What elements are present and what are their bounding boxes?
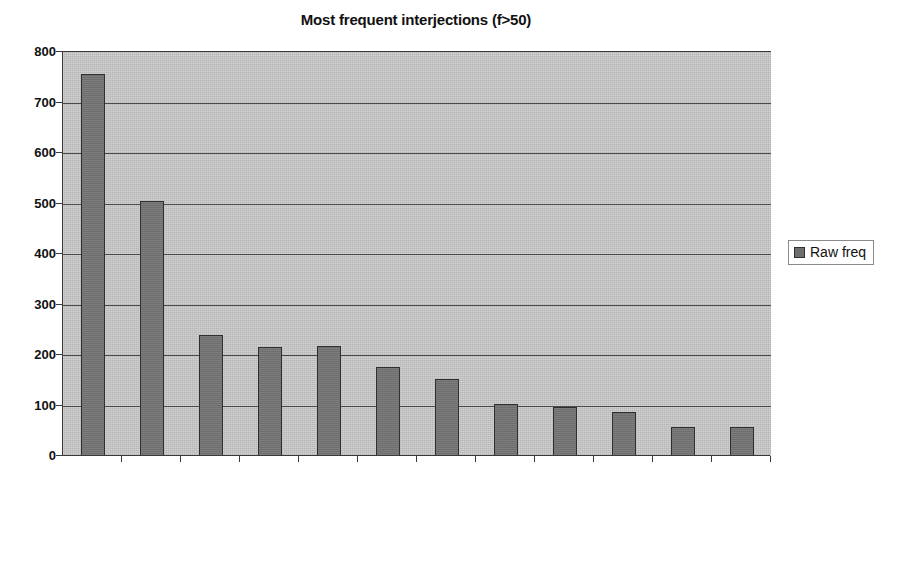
bar (81, 74, 105, 456)
y-axis-tick-label: 400 (10, 246, 56, 261)
y-axis-tick (56, 354, 62, 355)
bar (435, 379, 459, 456)
y-axis-tick-label: 100 (10, 397, 56, 412)
bar (553, 407, 577, 456)
y-axis-tick-label: 800 (10, 44, 56, 59)
y-axis-tick (56, 102, 62, 103)
x-axis-tick (180, 456, 181, 462)
y-axis-tick (56, 405, 62, 406)
gridline (63, 153, 771, 154)
y-axis-tick-label: 600 (10, 145, 56, 160)
plot-area (62, 51, 771, 456)
y-axis-tick (56, 152, 62, 153)
y-axis-line (62, 51, 63, 456)
x-axis-tick (593, 456, 594, 462)
x-axis-tick (534, 456, 535, 462)
y-axis-tick-label: 0 (10, 448, 56, 463)
y-axis-tick-label: 200 (10, 347, 56, 362)
y-axis-tick (56, 253, 62, 254)
gridline (63, 204, 771, 205)
bar (494, 404, 518, 456)
chart-title: Most frequent interjections (f>50) (62, 11, 770, 28)
bar (317, 346, 341, 456)
gridline (63, 305, 771, 306)
bar (140, 201, 164, 456)
y-axis-tick (56, 304, 62, 305)
gridline (63, 254, 771, 255)
bar (199, 335, 223, 456)
legend-label-raw-freq: Raw freq (810, 244, 866, 260)
legend: Raw freq (788, 240, 874, 265)
y-axis-tick-label: 700 (10, 94, 56, 109)
y-axis-tick-label: 300 (10, 296, 56, 311)
bar-chart: Most frequent interjections (f>50) 01002… (0, 0, 910, 577)
gridline (63, 355, 771, 356)
bar (730, 427, 754, 456)
bar (612, 412, 636, 456)
x-axis-tick (711, 456, 712, 462)
bar (671, 427, 695, 456)
x-axis-tick (121, 456, 122, 462)
y-axis-tick (56, 455, 62, 456)
x-axis-tick (475, 456, 476, 462)
legend-swatch-raw-freq (794, 247, 805, 258)
x-axis-tick (770, 456, 771, 462)
bar (376, 367, 400, 456)
x-axis-tick (416, 456, 417, 462)
x-axis-tick (357, 456, 358, 462)
x-axis-tick (298, 456, 299, 462)
x-axis-tick (652, 456, 653, 462)
x-axis-tick (239, 456, 240, 462)
y-axis-tick-label: 500 (10, 195, 56, 210)
y-axis-tick (56, 51, 62, 52)
gridline (63, 406, 771, 407)
bar (258, 347, 282, 456)
y-axis: 0100200300400500600700800 (0, 0, 56, 577)
y-axis-tick (56, 203, 62, 204)
gridline (63, 103, 771, 104)
